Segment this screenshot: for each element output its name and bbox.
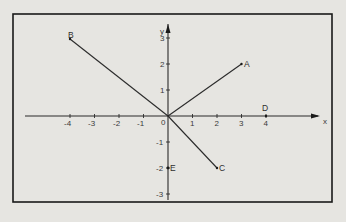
point-A-marker xyxy=(240,63,242,65)
point-E-marker xyxy=(167,167,170,170)
origin-label: 0 xyxy=(161,118,166,127)
svg-text:-3: -3 xyxy=(88,119,96,128)
y-axis-arrow-icon xyxy=(166,24,171,33)
svg-text:1: 1 xyxy=(160,86,165,95)
coordinate-diagram: A B C D E x y 0 -4 -3 -2 -1 1 2 3 4 3 2 … xyxy=(0,0,346,222)
segment-OB xyxy=(70,39,168,116)
point-C-label: C xyxy=(219,163,225,173)
svg-text:2: 2 xyxy=(215,119,220,128)
frame-border xyxy=(13,14,332,202)
svg-text:-1: -1 xyxy=(137,119,145,128)
point-D-label: D xyxy=(262,103,268,113)
segment-OA xyxy=(168,64,242,116)
x-axis-arrow-icon xyxy=(311,114,320,119)
svg-text:3: 3 xyxy=(239,119,244,128)
svg-text:-3: -3 xyxy=(156,190,164,199)
svg-text:1: 1 xyxy=(190,119,195,128)
svg-text:2: 2 xyxy=(160,60,165,69)
point-D-marker xyxy=(265,115,267,117)
svg-text:4: 4 xyxy=(264,119,269,128)
x-tick-labels: -4 -3 -2 -1 1 2 3 4 xyxy=(64,119,269,128)
svg-text:-4: -4 xyxy=(64,119,72,128)
svg-text:-2: -2 xyxy=(113,119,121,128)
point-E-label: E xyxy=(170,163,176,173)
svg-text:-1: -1 xyxy=(156,138,164,147)
diagram-canvas: A B C D E x y 0 -4 -3 -2 -1 1 2 3 4 3 2 … xyxy=(0,0,346,222)
point-A-label: A xyxy=(244,59,250,69)
x-axis-label: x xyxy=(323,117,327,126)
point-C-marker xyxy=(216,167,218,169)
svg-text:3: 3 xyxy=(160,34,165,43)
svg-text:-2: -2 xyxy=(156,164,164,173)
point-B-label: B xyxy=(68,30,74,40)
